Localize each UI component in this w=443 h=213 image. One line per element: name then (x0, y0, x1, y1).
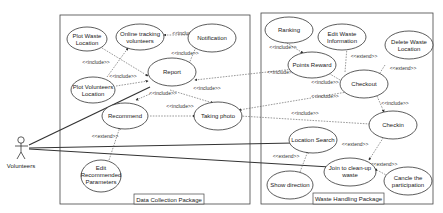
include-label: <<include>> (381, 100, 409, 106)
svg-text:Taking photo: Taking photo (201, 113, 236, 119)
use-case-recommend[interactable]: Recommend (102, 103, 148, 129)
use-case-plot-waste-location[interactable]: Plot Waste Location (67, 27, 107, 51)
svg-text:Ranking: Ranking (278, 27, 300, 33)
svg-text:Information: Information (327, 38, 357, 44)
use-case-ranking[interactable]: Ranking (265, 17, 313, 43)
svg-text:Cancle the: Cancle the (394, 175, 423, 181)
actor-label: Volunteers (7, 163, 35, 169)
svg-text:Plot Volunteers: Plot Volunteers (73, 84, 113, 90)
svg-text:Checkin: Checkin (382, 122, 404, 128)
include-label: <<include>> (311, 79, 339, 85)
volunteers-actor[interactable]: Volunteers (7, 137, 35, 169)
svg-text:waste: waste (341, 172, 358, 178)
svg-text:Edit: Edit (96, 165, 107, 171)
use-case-checkout[interactable]: Checkout (340, 70, 388, 98)
svg-text:Show direction: Show direction (270, 182, 309, 188)
svg-text:Plot Waste: Plot Waste (73, 33, 102, 39)
use-case-online-tracking-volunteers[interactable]: Online tracking volunteers (116, 24, 164, 50)
use-case-delete-waste-location[interactable]: Delete Waste Location (385, 31, 433, 59)
extend-label: <<extend>> (342, 141, 369, 147)
svg-text:Parameters: Parameters (85, 179, 116, 185)
include-label: <<include>> (149, 90, 177, 96)
use-case-show-direction[interactable]: Show direction (267, 171, 313, 199)
use-case-report[interactable]: Report (148, 58, 196, 86)
svg-text:Recommend: Recommend (108, 113, 142, 119)
use-case-location-search[interactable]: Location Search (289, 127, 337, 153)
svg-text:Report: Report (163, 69, 181, 75)
include-label: <<include>> (269, 44, 297, 50)
svg-text:Recommended: Recommended (81, 172, 122, 178)
svg-text:participation: participation (392, 182, 424, 188)
use-case-plot-volunteers-location[interactable]: Plot Volunteers Location (71, 77, 115, 103)
use-case-join-cleanup-waste[interactable]: Join to clean-up waste (324, 158, 376, 186)
svg-text:Delete Waste: Delete Waste (391, 39, 427, 45)
data-collection-package-label: Data Collection Package (136, 197, 202, 203)
use-case-checkin[interactable]: Checkin (369, 111, 417, 139)
include-label: <<include>> (82, 59, 110, 65)
svg-text:Join to clean-up: Join to clean-up (329, 165, 372, 171)
extend-label: <<extend>> (371, 161, 398, 167)
use-case-edit-waste-information[interactable]: Edit Waste Information (318, 24, 366, 50)
waste-handling-package-label: Waste Handling Package (315, 196, 383, 202)
use-case-taking-photo[interactable]: Taking photo (194, 102, 242, 130)
svg-text:Location: Location (76, 40, 99, 46)
extend-label: <<extend>> (273, 153, 300, 159)
include-label: <<include>> (109, 73, 137, 79)
include-label: <<include>> (166, 103, 194, 109)
svg-text:Notification: Notification (197, 35, 227, 41)
svg-text:Online tracking: Online tracking (120, 31, 160, 37)
use-case-edit-recommended-parameters[interactable]: Edit Recommended Parameters (81, 160, 122, 192)
extend-label: <<extend>> (351, 53, 378, 59)
svg-text:Location Search: Location Search (291, 137, 334, 143)
include-label: <<include>> (311, 93, 339, 99)
svg-text:Edit Waste: Edit Waste (328, 31, 357, 37)
use-case-cancel-participation[interactable]: Cancle the participation (384, 167, 432, 195)
include-label: <<include>> (193, 85, 221, 91)
svg-text:volunteers: volunteers (126, 38, 154, 44)
dependencies (102, 35, 388, 176)
use-case-points-reward[interactable]: Points Reward (288, 52, 336, 78)
use-case-diagram: Data Collection Package Waste Handling P… (0, 0, 443, 213)
svg-text:Points Reward: Points Reward (292, 62, 331, 68)
include-label: <<include>> (171, 50, 199, 56)
use-case-notification[interactable]: Notification (188, 24, 236, 52)
svg-text:Location: Location (398, 46, 421, 52)
include-label: <<include>> (291, 110, 319, 116)
svg-text:Checkout: Checkout (351, 81, 377, 87)
extend-label: <<extend>> (92, 133, 119, 139)
svg-text:Location: Location (82, 91, 105, 97)
extend-label: <<extend>> (390, 65, 417, 71)
